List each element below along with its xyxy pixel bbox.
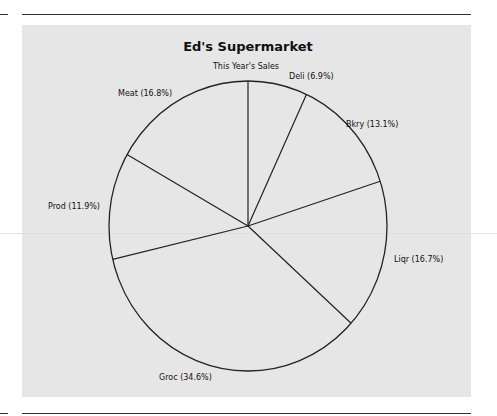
slice-label-bkry: Bkry (13.1%) [346,120,398,129]
slice-label-meat: Meat (16.8%) [118,89,172,98]
chart-subtitle: This Year's Sales [212,62,279,71]
pie-chart: Ed's Supermarket This Year's Sales Deli … [0,0,497,416]
slice-boundary-groc [248,226,351,323]
slice-label-prod: Prod (11.9%) [48,202,100,211]
slice-label-groc: Groc (34.6%) [159,373,212,382]
slice-label-liqr: Liqr (16.7%) [394,255,443,264]
slice-boundary-meat [127,155,248,226]
slice-label-deli: Deli (6.9%) [289,72,334,81]
chart-title: Ed's Supermarket [183,39,313,54]
slice-boundary-bkry [248,94,306,226]
slice-boundary-liqr [248,181,380,226]
slice-boundary-prod [113,226,248,259]
